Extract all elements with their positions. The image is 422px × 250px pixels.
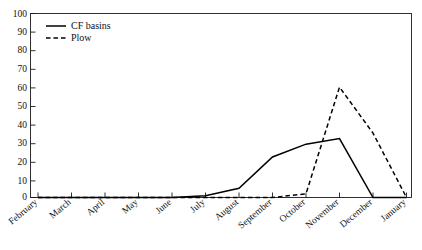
x-label-june: June — [154, 197, 174, 216]
x-label-december: December — [338, 196, 375, 229]
y-label-20: 20 — [18, 157, 28, 167]
x-label-november: November — [304, 196, 342, 230]
chart-legend: CF basins Plow — [46, 20, 111, 43]
chart-svg: 100 90 80 70 60 50 40 30 20 10 0 — [0, 0, 422, 250]
y-label-70: 70 — [18, 64, 28, 74]
x-label-april: April — [84, 197, 106, 218]
series-line-cf-basins — [38, 139, 407, 198]
y-axis-ticks — [31, 14, 36, 198]
x-axis-labels: February March April May June July Augus… — [7, 196, 408, 230]
y-label-10: 10 — [18, 176, 28, 186]
y-label-90: 90 — [18, 27, 28, 37]
x-label-september: September — [236, 196, 274, 230]
x-label-october: October — [277, 196, 308, 224]
x-label-january: January — [379, 197, 408, 224]
y-label-40: 40 — [18, 120, 28, 130]
legend-label-plow: Plow — [71, 32, 92, 43]
x-label-july: July — [188, 197, 207, 215]
y-label-50: 50 — [18, 101, 28, 111]
y-axis-labels: 100 90 80 70 60 50 40 30 20 10 0 — [13, 9, 28, 203]
y-label-60: 60 — [18, 83, 28, 93]
y-label-100: 100 — [13, 9, 28, 19]
x-label-march: March — [47, 197, 73, 221]
x-label-august: August — [213, 197, 241, 223]
legend-label-cf-basins: CF basins — [71, 20, 111, 31]
y-label-0: 0 — [22, 192, 27, 202]
line-chart: 100 90 80 70 60 50 40 30 20 10 0 — [0, 0, 422, 250]
y-label-80: 80 — [18, 45, 28, 55]
x-label-may: May — [120, 197, 140, 216]
series-line-plow — [38, 87, 407, 197]
y-label-30: 30 — [18, 138, 28, 148]
